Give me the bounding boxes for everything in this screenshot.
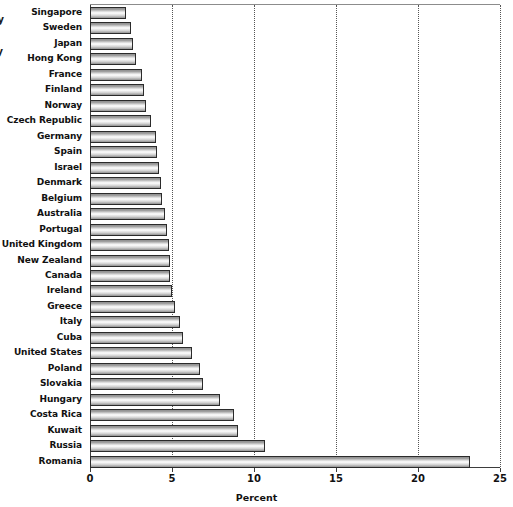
category-label: Ireland (47, 284, 82, 296)
x-tick-label: 10 (247, 473, 261, 484)
x-tick-label: 15 (329, 473, 343, 484)
category-label: Czech Republic (7, 114, 82, 126)
bar (90, 255, 170, 267)
bar (90, 270, 170, 282)
bar (90, 440, 265, 452)
category-label-column: SingaporeSwedenJapanHong KongFranceFinla… (0, 4, 85, 468)
category-label: Poland (48, 362, 82, 374)
bar (90, 239, 169, 251)
bar (90, 456, 470, 468)
category-label: Russia (49, 439, 82, 451)
category-label: Australia (37, 207, 82, 219)
x-tick-mark (90, 468, 91, 472)
bar (90, 131, 156, 143)
bar (90, 53, 136, 65)
bar (90, 394, 220, 406)
x-tick-label: 25 (493, 473, 507, 484)
bar (90, 115, 151, 127)
bar (90, 363, 200, 375)
gridline-20 (418, 5, 419, 467)
category-label: Singapore (31, 6, 82, 18)
category-label: Italy (60, 315, 82, 327)
plot-area (90, 4, 500, 468)
x-tick-label: 5 (169, 473, 176, 484)
category-label: Norway (44, 99, 82, 111)
bar (90, 22, 131, 34)
x-axis-title: Percent (0, 492, 513, 503)
category-label: Japan (54, 37, 82, 49)
category-label: Costa Rica (30, 408, 82, 420)
category-label: Cuba (57, 331, 82, 343)
bar (90, 193, 162, 205)
x-tick-label: 20 (411, 473, 425, 484)
bar (90, 425, 238, 437)
bar (90, 332, 183, 344)
bar (90, 162, 159, 174)
bar (90, 285, 172, 297)
category-label: New Zealand (17, 254, 82, 266)
bar-chart: ly ly SingaporeSwedenJapanHong KongFranc… (0, 0, 513, 507)
bar (90, 208, 165, 220)
category-label: Canada (45, 269, 82, 281)
bar (90, 100, 146, 112)
gridline-25 (500, 5, 501, 467)
gridline-15 (336, 5, 337, 467)
category-label: Hungary (40, 393, 82, 405)
category-label: Finland (45, 83, 82, 95)
category-label: France (49, 68, 82, 80)
gridline-10 (254, 5, 255, 467)
category-label: Israel (54, 161, 82, 173)
bar (90, 69, 142, 81)
category-label: Germany (37, 130, 82, 142)
category-label: Slovakia (40, 377, 82, 389)
bar (90, 347, 192, 359)
category-label: Greece (47, 300, 82, 312)
bar (90, 7, 126, 19)
category-label: Portugal (39, 223, 82, 235)
category-label: Romania (39, 455, 82, 467)
category-label: Denmark (37, 176, 82, 188)
x-axis: 0510152025 (90, 468, 500, 490)
bar (90, 84, 144, 96)
bar (90, 378, 203, 390)
x-tick-mark (500, 468, 501, 472)
bar (90, 224, 167, 236)
bar (90, 38, 133, 50)
bar (90, 177, 161, 189)
x-tick-mark (254, 468, 255, 472)
bar (90, 146, 157, 158)
category-label: Spain (54, 145, 82, 157)
x-tick-label: 0 (87, 473, 94, 484)
category-label: Hong Kong (27, 52, 82, 64)
category-label: Belgium (41, 192, 82, 204)
bar (90, 409, 234, 421)
category-label: United States (14, 346, 82, 358)
x-tick-mark (418, 468, 419, 472)
category-label: United Kingdom (2, 238, 82, 250)
x-tick-mark (336, 468, 337, 472)
x-tick-mark (172, 468, 173, 472)
category-label: Kuwait (48, 424, 82, 436)
bar (90, 301, 175, 313)
category-label: Sweden (43, 21, 82, 33)
bar (90, 316, 180, 328)
